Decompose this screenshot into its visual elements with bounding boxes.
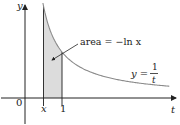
origin-label: 0 xyxy=(16,97,22,108)
one-tick-label: 1 xyxy=(60,103,66,114)
curve-label-denominator: t xyxy=(152,75,156,85)
y-axis-label: y xyxy=(16,0,23,11)
t-axis-label: t xyxy=(171,104,176,115)
diagram-canvas: y t 0 x 1 area = −ln x y = 1 t xyxy=(0,0,180,125)
x-tick-label: x xyxy=(41,103,47,114)
area-annotation-text: area = −ln x xyxy=(80,36,142,47)
curve-label-numerator: 1 xyxy=(152,62,158,72)
curve-label-lhs: y = xyxy=(130,68,148,79)
area-annotation: area = −ln x xyxy=(80,36,142,47)
